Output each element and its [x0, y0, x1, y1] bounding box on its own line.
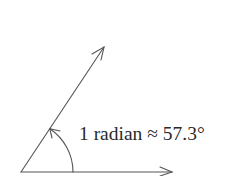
- radian-label: 1 radian ≈ 57.3°: [79, 124, 205, 144]
- inclined-ray: [21, 47, 104, 172]
- angle-arc: [50, 129, 73, 172]
- radian-diagram: [0, 0, 239, 176]
